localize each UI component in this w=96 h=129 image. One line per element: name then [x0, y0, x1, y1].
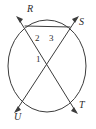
point-label-U: U: [14, 112, 21, 122]
secant-line-S-U: [16, 18, 77, 111]
arrowhead-S-icon: [72, 16, 79, 23]
angle-label-2: 2: [35, 34, 40, 43]
arrowhead-T-icon: [71, 107, 78, 114]
angle-label-3: 3: [49, 34, 54, 43]
arrowhead-R-icon: [16, 16, 23, 23]
point-label-T: T: [79, 100, 85, 110]
point-label-R: R: [27, 4, 33, 14]
point-label-S: S: [79, 17, 84, 27]
angle-label-1: 1: [36, 55, 41, 64]
main-circle: [8, 20, 86, 112]
chord-line-R-S: [25, 26, 70, 27]
geometry-diagram: R S U T 1 2 3: [0, 0, 96, 129]
